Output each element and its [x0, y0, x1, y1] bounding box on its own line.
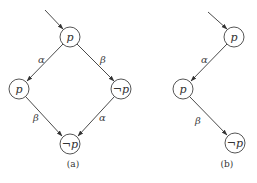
edge-a-top-right — [77, 44, 114, 81]
edge-b-top-mid — [191, 44, 227, 81]
node-a-left: p — [9, 79, 29, 99]
edge-label-b-top-mid: α — [201, 54, 208, 65]
state-label: p — [15, 83, 22, 96]
state-label: p — [66, 31, 73, 44]
state-label: p — [179, 83, 186, 96]
edge-a-right-bottom — [78, 97, 114, 136]
state-label: ¬p — [62, 138, 78, 151]
edge-label-b-mid-bottom: β — [194, 115, 201, 126]
diagram-a: α β β α p p ¬p ¬p (a) — [9, 10, 131, 169]
node-a-bottom: ¬p — [60, 134, 80, 154]
state-label: ¬p — [113, 83, 129, 96]
edge-label-a-right-bottom: α — [99, 112, 106, 123]
entry-arrow-b — [208, 12, 227, 29]
state-label: ¬p — [227, 137, 243, 150]
node-b-bottom: ¬p — [225, 133, 245, 153]
state-transition-diagrams: α β β α p p ¬p ¬p (a) α β — [0, 0, 257, 183]
edge-label-a-top-right: β — [99, 54, 106, 65]
diagram-b: α β p p ¬p (b) — [173, 12, 245, 169]
node-a-top: p — [60, 27, 80, 47]
state-label: p — [230, 31, 237, 44]
caption-b: (b) — [221, 159, 234, 169]
node-b-top: p — [224, 27, 244, 47]
edge-a-top-left — [27, 44, 63, 81]
node-a-right: ¬p — [111, 79, 131, 99]
entry-arrow-a — [45, 10, 63, 29]
node-b-mid: p — [173, 79, 193, 99]
caption-a: (a) — [67, 159, 79, 169]
edge-label-a-top-left: α — [38, 54, 45, 65]
edge-label-a-left-bottom: β — [32, 112, 39, 123]
edge-a-left-bottom — [26, 97, 62, 136]
